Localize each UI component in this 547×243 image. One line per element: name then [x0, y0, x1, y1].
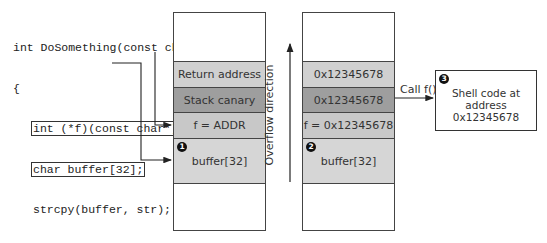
stack-buffer: 1 buffer[32] — [174, 138, 265, 183]
step-3-badge: 3 — [439, 74, 449, 84]
arrow-fptr-to-stack — [155, 52, 171, 125]
shellcode-box: 3 Shell code at address 0x12345678 — [435, 70, 537, 131]
stack-empty-bottom — [174, 183, 265, 232]
stack-function-pointer: f = ADDR — [174, 112, 265, 138]
stack-canary: Stack canary — [174, 87, 265, 112]
stack-before-overflow: Return address Stack canary f = ADDR 1 b… — [173, 12, 266, 231]
stack-buffer: 2 buffer[32] — [303, 138, 394, 183]
stack-empty-top — [303, 13, 394, 61]
overflow-direction-label: Overflow direction — [263, 65, 276, 166]
stack-return-address-overwritten: 0x12345678 — [303, 61, 394, 87]
step-2-badge: 2 — [306, 142, 316, 152]
stack-buffer-label: buffer[32] — [192, 155, 247, 168]
shellcode-line1: Shell code at address — [436, 87, 536, 111]
stack-function-pointer-overwritten: f = 0x12345678 — [303, 112, 394, 138]
shellcode-line2: 0x12345678 — [436, 111, 536, 123]
stack-empty-bottom — [303, 183, 394, 232]
stack-empty-top — [174, 13, 265, 61]
stack-canary-overwritten: 0x12345678 — [303, 87, 394, 112]
call-f-label: Call f() — [400, 83, 437, 96]
stack-after-overflow: 0x12345678 0x12345678 f = 0x12345678 2 b… — [302, 12, 395, 231]
stack-return-address: Return address — [174, 61, 265, 87]
stack-buffer-label: buffer[32] — [321, 155, 376, 168]
arrow-buffer-to-stack — [112, 63, 171, 160]
step-1-badge: 1 — [177, 142, 187, 152]
